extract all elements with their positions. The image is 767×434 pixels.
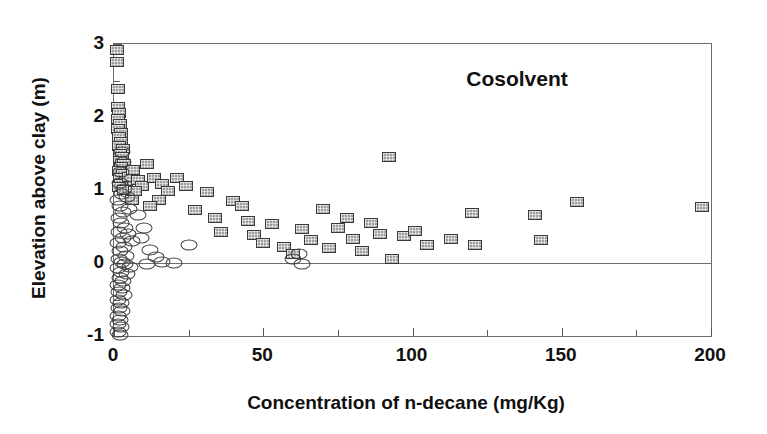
data-point-squares: [110, 45, 124, 55]
x-tick-minor: [487, 330, 488, 336]
data-point-ellipses: [165, 258, 182, 269]
x-tick-major: [562, 328, 563, 336]
data-point-ellipses: [129, 209, 146, 220]
data-point-squares: [241, 216, 255, 226]
data-point-squares: [331, 223, 345, 233]
data-point-squares: [385, 254, 399, 264]
data-point-ellipses: [294, 259, 311, 270]
data-point-ellipses: [180, 239, 197, 250]
data-point-squares: [408, 226, 422, 236]
x-axis-title: Concentration of n-decane (mg/Kg): [96, 392, 716, 414]
data-point-squares: [161, 186, 175, 196]
x-tick-minor: [338, 330, 339, 336]
data-point-squares: [256, 238, 270, 248]
data-point-squares: [200, 187, 214, 197]
data-point-squares: [534, 235, 548, 245]
data-point-squares: [382, 152, 396, 162]
data-point-squares: [265, 219, 279, 229]
y-tick-label: 1: [0, 178, 104, 200]
x-tick-major: [413, 328, 414, 336]
data-point-squares: [364, 218, 378, 228]
data-point-squares: [322, 243, 336, 253]
data-point-ellipses: [111, 329, 128, 340]
data-point-squares: [695, 202, 709, 212]
data-point-squares: [295, 224, 309, 234]
data-point-squares: [468, 240, 482, 250]
data-point-squares: [316, 204, 330, 214]
data-point-squares: [304, 235, 318, 245]
data-point-squares: [444, 234, 458, 244]
data-point-squares: [140, 159, 154, 169]
data-point-ellipses: [132, 233, 149, 244]
chart-figure: Elevation above clay (m) Concentration o…: [0, 0, 767, 434]
data-point-squares: [355, 246, 369, 256]
plot-area: Cosolvent: [113, 43, 712, 337]
zero-reference-line: [114, 263, 711, 264]
data-point-squares: [420, 240, 434, 250]
data-point-squares: [143, 201, 157, 211]
x-tick-minor: [189, 330, 190, 336]
series-annotation-label: Cosolvent: [466, 67, 568, 91]
x-tick-label: 100: [396, 344, 428, 366]
data-point-squares: [188, 205, 202, 215]
x-tick-label: 0: [108, 344, 119, 366]
data-point-squares: [111, 84, 125, 94]
x-tick-label: 200: [694, 344, 726, 366]
data-point-squares: [110, 57, 124, 67]
data-point-squares: [340, 213, 354, 223]
y-tick-label: 0: [0, 251, 104, 273]
data-point-squares: [346, 234, 360, 244]
x-tick-major: [711, 328, 712, 336]
data-point-squares: [465, 208, 479, 218]
y-tick-label: -1: [0, 324, 104, 346]
y-tick-label: 2: [0, 105, 104, 127]
data-point-ellipses: [291, 249, 308, 260]
data-point-squares: [214, 227, 228, 237]
data-point-ellipses: [135, 222, 152, 233]
data-point-squares: [570, 197, 584, 207]
x-tick-major: [263, 328, 264, 336]
x-tick-label: 50: [252, 344, 273, 366]
data-point-squares: [179, 181, 193, 191]
data-point-ellipses: [114, 157, 131, 168]
data-point-squares: [373, 229, 387, 239]
data-point-squares: [235, 201, 249, 211]
data-point-squares: [528, 210, 542, 220]
y-tick-label: 3: [0, 32, 104, 54]
x-tick-label: 150: [545, 344, 577, 366]
x-tick-minor: [636, 330, 637, 336]
data-point-squares: [208, 213, 222, 223]
y-tick-minor: [114, 81, 120, 82]
